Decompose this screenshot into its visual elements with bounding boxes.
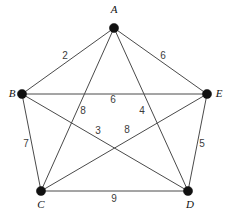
graph-vertex-e (202, 89, 211, 98)
edge-weight-bd: 3 (95, 125, 101, 136)
edges-group (22, 28, 207, 191)
edge-weight-be: 6 (110, 94, 116, 105)
edge-weight-ae: 6 (160, 50, 166, 61)
graph-edge-ab (22, 28, 114, 94)
graph-canvas: ABECD 2668438759 (0, 0, 234, 215)
edge-weight-ce: 8 (124, 124, 130, 135)
edge-weight-cd: 9 (111, 193, 117, 204)
graph-vertex-c (36, 186, 45, 195)
graph-edge-ce (41, 94, 207, 191)
graph-edge-ad (114, 28, 188, 191)
edge-weight-ac: 8 (80, 105, 86, 116)
edge-weight-bc: 7 (23, 138, 29, 149)
weighted-graph-diagram: ABECD 2668438759 (0, 0, 234, 215)
edge-weight-ad: 4 (139, 105, 145, 116)
edge-weight-ab: 2 (62, 50, 68, 61)
vertices-group (17, 23, 211, 195)
vertex-label-a: A (110, 3, 118, 15)
graph-vertex-a (109, 23, 118, 32)
graph-edge-bd (22, 94, 188, 191)
graph-vertex-b (17, 89, 26, 98)
vertex-label-c: C (37, 198, 45, 210)
graph-vertex-d (183, 186, 192, 195)
graph-edge-ac (41, 28, 114, 191)
vertex-label-d: D (185, 198, 194, 210)
vertex-label-b: B (9, 87, 16, 99)
graph-edge-ae (114, 28, 207, 94)
edge-weight-de: 5 (199, 138, 205, 149)
vertex-label-e: E (215, 87, 223, 99)
